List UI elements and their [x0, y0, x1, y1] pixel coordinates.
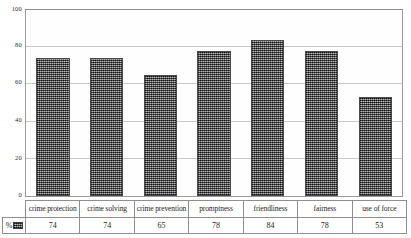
plot-area: [25, 9, 403, 197]
value-cell-crime-protection: 74: [26, 218, 80, 234]
bar-slot-promptness: [187, 10, 241, 196]
category-label-friendliness: friendliness: [243, 201, 297, 218]
category-label-crime-prevention: crime prevention: [134, 201, 188, 218]
table-row-categories: crime protection crime solving crime pre…: [3, 201, 407, 218]
y-tick-0: 0: [19, 192, 22, 199]
y-tick-40: 40: [15, 117, 22, 124]
bar-fairness[interactable]: [305, 51, 338, 196]
category-label-promptness: promptness: [189, 201, 243, 218]
value-cell-promptness: 78: [189, 218, 243, 234]
value-cell-friendliness: 84: [243, 218, 297, 234]
legend-swatch-icon: [13, 222, 23, 229]
bar-slot-crime-prevention: [133, 10, 187, 196]
bar-crime-solving[interactable]: [90, 58, 123, 196]
bar-use-of-force[interactable]: [359, 97, 392, 196]
bar-slot-fairness: [295, 10, 349, 196]
value-cell-fairness: 78: [298, 218, 352, 234]
y-tick-60: 60: [15, 79, 22, 86]
bar-slot-crime-solving: [80, 10, 134, 196]
legend-cell: %: [3, 218, 26, 234]
y-tick-100: 100: [12, 6, 22, 13]
bar-crime-protection[interactable]: [36, 58, 69, 196]
category-label-fairness: fairness: [298, 201, 352, 218]
bar-promptness[interactable]: [197, 51, 230, 196]
category-label-use-of-force: use of force: [352, 201, 406, 218]
y-axis: 100 80 60 40 20 0: [0, 0, 25, 200]
category-label-crime-solving: crime solving: [80, 201, 134, 218]
value-cell-crime-solving: 74: [80, 218, 134, 234]
bar-crime-prevention[interactable]: [144, 75, 177, 196]
table-corner-blank: [3, 201, 26, 218]
chart-plot-wrapper: 100 80 60 40 20 0: [0, 0, 411, 200]
value-cell-use-of-force: 53: [352, 218, 406, 234]
y-tick-20: 20: [15, 155, 22, 162]
y-tick-80: 80: [15, 42, 22, 49]
bar-slot-use-of-force: [348, 10, 402, 196]
table-row-values: % 74 74 65 78 84 78 53: [3, 218, 407, 234]
bar-slot-friendliness: [241, 10, 295, 196]
bars-layer: [26, 10, 402, 196]
chart-data-table: crime protection crime solving crime pre…: [2, 200, 407, 234]
category-label-crime-protection: crime protection: [26, 201, 80, 218]
bar-chart-screenshot: 100 80 60 40 20 0: [0, 0, 411, 238]
bar-friendliness[interactable]: [251, 40, 284, 196]
bar-slot-crime-protection: [26, 10, 80, 196]
legend-label: %: [6, 221, 13, 230]
value-cell-crime-prevention: 65: [134, 218, 188, 234]
